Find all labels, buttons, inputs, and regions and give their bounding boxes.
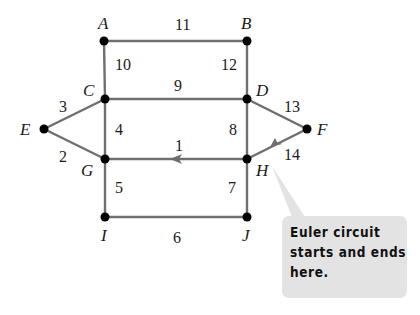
edge-E-C <box>44 99 105 129</box>
vertex-label-A: A <box>97 14 109 33</box>
edge-label-5: 5 <box>115 179 123 196</box>
vertex-label-G: G <box>81 161 93 180</box>
vertex-A <box>100 37 109 46</box>
edge-label-9: 9 <box>174 77 182 94</box>
edge-label-7: 7 <box>228 179 236 196</box>
vertex-C <box>101 95 110 104</box>
callout-line-1: Euler circuit <box>290 222 399 242</box>
vertex-H <box>243 155 252 164</box>
vertex-G <box>101 155 110 164</box>
vertex-label-B: B <box>241 14 252 33</box>
edge-label-3: 3 <box>59 98 67 115</box>
vertex-I <box>101 213 110 222</box>
edge-E-G <box>44 129 105 159</box>
edge-label-13: 13 <box>284 98 300 115</box>
vertex-label-J: J <box>242 226 251 245</box>
vertex-F <box>303 125 312 134</box>
edge-label-8: 8 <box>229 121 237 138</box>
vertex-label-I: I <box>100 226 108 245</box>
edge-label-4: 4 <box>115 121 123 138</box>
callout-line-2: starts and ends <box>290 242 399 262</box>
vertex-label-C: C <box>83 81 95 100</box>
euler-circuit-callout: Euler circuit starts and ends here. <box>282 216 407 298</box>
edge-label-2: 2 <box>59 148 67 165</box>
vertex-D <box>243 95 252 104</box>
vertex-J <box>243 213 252 222</box>
callout-pointer <box>272 166 305 217</box>
vertex-label-H: H <box>255 161 270 180</box>
edge-label-10: 10 <box>115 56 131 73</box>
vertex-label-D: D <box>255 81 269 100</box>
edge-A-C <box>104 41 105 99</box>
vertex-E <box>40 125 49 134</box>
vertex-label-E: E <box>19 120 31 139</box>
edge-label-14: 14 <box>284 146 300 163</box>
callout-line-3: here. <box>290 262 399 282</box>
vertex-label-F: F <box>316 120 328 139</box>
edge-label-6: 6 <box>173 229 181 246</box>
edge-label-1: 1 <box>175 137 183 154</box>
edge-label-11: 11 <box>175 16 190 33</box>
vertex-B <box>243 37 252 46</box>
edge-label-12: 12 <box>221 56 237 73</box>
